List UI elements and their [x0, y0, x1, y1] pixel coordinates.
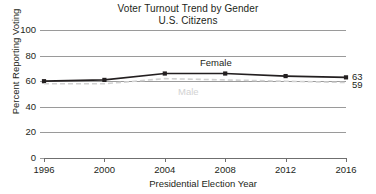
- x-tick-label: 2016: [324, 164, 368, 175]
- series-label-male: Male: [178, 86, 199, 97]
- series-line-female: [44, 74, 346, 82]
- x-tick-label: 2004: [143, 164, 187, 175]
- x-tick-mark: [225, 158, 226, 162]
- data-point-marker: [284, 74, 288, 78]
- data-point-marker: [163, 71, 167, 75]
- series-label-female: Female: [200, 57, 232, 68]
- data-point-marker: [42, 79, 46, 83]
- x-tick-mark: [44, 158, 45, 162]
- x-axis-title: Presidential Election Year: [30, 178, 376, 189]
- data-point-marker: [223, 71, 227, 75]
- x-tick-label: 2000: [82, 164, 126, 175]
- data-point-marker: [344, 75, 348, 79]
- x-tick-mark: [286, 158, 287, 162]
- x-tick-label: 2012: [264, 164, 308, 175]
- x-tick-mark: [165, 158, 166, 162]
- x-tick-label: 2008: [203, 164, 247, 175]
- end-value-label-male: 59: [352, 79, 363, 90]
- data-point-marker: [102, 78, 106, 82]
- x-tick-label: 1996: [22, 164, 66, 175]
- chart-container: Voter Turnout Trend by Gender U.S. Citiz…: [0, 0, 376, 194]
- x-tick-mark: [346, 158, 347, 162]
- x-tick-mark: [104, 158, 105, 162]
